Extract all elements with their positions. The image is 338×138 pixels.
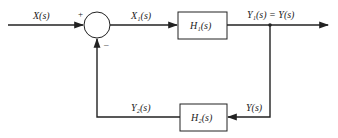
feedback-output-label: Y₂(s) — [131, 102, 151, 114]
feedback-block-diagram: X(s) + – X₁(s) H₁(s) Y₁(s) = Y(s) Y(s) H… — [0, 0, 338, 138]
input-signal-label: X(s) — [32, 10, 50, 22]
plus-sign: + — [78, 9, 83, 19]
feedback-block-label: H₂(s) — [190, 112, 213, 124]
feedback-input-label: Y(s) — [246, 102, 263, 114]
error-signal-label: X₁(s) — [130, 10, 152, 22]
summing-junction — [84, 12, 110, 38]
output-signal-label: Y₁(s) = Y(s) — [247, 9, 295, 21]
minus-sign: – — [103, 39, 109, 49]
forward-block-label: H₁(s) — [189, 20, 212, 32]
